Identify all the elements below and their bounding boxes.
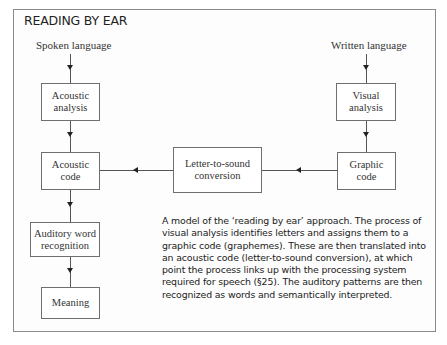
figure-title: READING BY EAR: [24, 13, 127, 28]
box-visual-analysis: Visual analysis: [336, 83, 396, 121]
box-text: Letter-to-sound: [185, 158, 250, 170]
box-text: analysis: [349, 102, 383, 114]
box-meaning: Meaning: [41, 287, 100, 319]
box-letter-to-sound-conversion: Letter-to-sound conversion: [173, 147, 262, 193]
box-text: recognition: [34, 240, 96, 252]
arrow-left-icon: [296, 167, 301, 173]
written-language-label: Written language: [331, 39, 407, 51]
box-acoustic-analysis: Acoustic analysis: [41, 83, 100, 121]
box-auditory-word-recognition: Auditory word recognition: [30, 222, 100, 257]
box-text: code: [52, 171, 89, 183]
box-text: Acoustic: [52, 159, 89, 171]
arrow-down-icon: [67, 65, 73, 70]
arrow-down-icon: [67, 132, 73, 137]
box-text: conversion: [185, 170, 250, 182]
arrow-left-icon: [133, 167, 138, 173]
box-text: Acoustic: [52, 90, 89, 102]
box-text: Meaning: [52, 297, 89, 309]
spoken-language-label: Spoken language: [36, 39, 111, 51]
box-graphic-code: Graphic code: [337, 152, 396, 190]
box-text: Auditory word: [34, 228, 96, 240]
arrow-down-icon: [67, 202, 73, 207]
arrow-down-icon: [363, 65, 369, 70]
box-acoustic-code: Acoustic code: [41, 152, 100, 190]
arrow-down-icon: [363, 132, 369, 137]
arrow-down-icon: [67, 268, 73, 273]
box-text: Visual: [349, 90, 383, 102]
box-text: Graphic: [350, 159, 384, 171]
figure-caption: A model of the ‘reading by ear’ approach…: [162, 215, 434, 301]
box-text: analysis: [52, 102, 89, 114]
box-text: code: [350, 171, 384, 183]
